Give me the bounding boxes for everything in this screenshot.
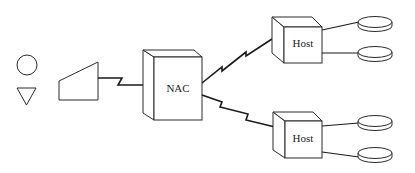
link-host-bottom-disk3 xyxy=(322,123,359,126)
host-bottom-node: Host xyxy=(273,112,322,158)
circle-symbol xyxy=(17,55,37,75)
link-host-top-disk1 xyxy=(322,22,359,30)
network-diagram: NAC Host Host xyxy=(0,0,415,173)
link-nac-host-top xyxy=(202,39,272,83)
host-top-label: Host xyxy=(293,37,314,49)
disk-3 xyxy=(358,116,392,131)
link-terminal-nac xyxy=(98,78,150,85)
disk-2 xyxy=(358,47,392,62)
disk-4 xyxy=(358,148,392,163)
host-top-node: Host xyxy=(272,17,322,63)
terminal-device xyxy=(59,62,98,100)
link-nac-host-bottom xyxy=(202,95,275,127)
nac-label: NAC xyxy=(166,82,189,94)
disk-1 xyxy=(358,17,392,32)
triangle-symbol xyxy=(17,88,36,105)
link-host-bottom-disk4 xyxy=(322,152,359,157)
nac-node: NAC xyxy=(143,50,202,120)
host-bottom-label: Host xyxy=(293,132,314,144)
